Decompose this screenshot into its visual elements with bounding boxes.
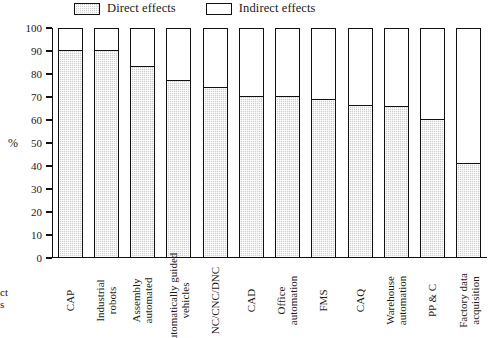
x-label-10: Warehouseautomation bbox=[384, 262, 409, 338]
bar-6 bbox=[239, 28, 264, 258]
y-tick-label: 10 bbox=[31, 229, 46, 240]
bar-segment-direct bbox=[240, 96, 263, 257]
x-label-text: NC/CNC/DNC bbox=[203, 266, 228, 333]
x-label-text: Officeautomation bbox=[275, 275, 300, 325]
bar-9 bbox=[348, 28, 373, 258]
cropped-edge-text-line2: s bbox=[0, 298, 26, 310]
y-tick-label: 60 bbox=[31, 114, 46, 125]
x-label-1: CAP bbox=[58, 262, 83, 338]
y-axis-ticks: 1009080706050403020100 bbox=[0, 28, 52, 258]
cropped-edge-text: ct s bbox=[0, 286, 26, 310]
bar-7 bbox=[275, 28, 300, 258]
chart-canvas: Direct effects Indirect effects % 100908… bbox=[0, 0, 495, 338]
bar-segment-direct bbox=[457, 163, 480, 257]
bar-segment-direct bbox=[131, 66, 154, 257]
bar-5 bbox=[203, 28, 228, 258]
x-label-text: Factory dataacquisition bbox=[456, 273, 481, 328]
y-tick-label: 30 bbox=[31, 183, 46, 194]
x-label-12: Factory dataacquisition bbox=[456, 262, 481, 338]
x-label-5: NC/CNC/DNC bbox=[203, 262, 228, 338]
bar-segment-direct bbox=[349, 105, 372, 257]
x-label-7: Officeautomation bbox=[275, 262, 300, 338]
y-tick-label: 50 bbox=[31, 137, 46, 148]
x-label-3: Assemblyautomated bbox=[130, 262, 155, 338]
y-tick-label: 80 bbox=[31, 68, 46, 79]
x-label-text: CAQ bbox=[348, 288, 373, 313]
y-tick-label: 100 bbox=[26, 22, 47, 33]
x-label-6: CAD bbox=[239, 262, 264, 338]
legend-label-direct: Direct effects bbox=[107, 1, 176, 16]
bar-3 bbox=[130, 28, 155, 258]
bar-segment-direct bbox=[95, 50, 118, 257]
x-label-2: Industrialrobots bbox=[94, 262, 119, 338]
bar-segment-direct bbox=[312, 99, 335, 257]
legend-swatch-direct-icon bbox=[74, 3, 100, 15]
x-label-text: CAP bbox=[58, 288, 83, 313]
bar-group bbox=[52, 28, 487, 258]
x-label-text: Automatically guidedvehicles bbox=[166, 262, 191, 338]
x-label-8: FMS bbox=[311, 262, 336, 338]
chart-legend: Direct effects Indirect effects bbox=[74, 1, 316, 16]
y-tick-label: 70 bbox=[31, 91, 46, 102]
bar-2 bbox=[94, 28, 119, 258]
x-axis-labels: CAPIndustrialrobotsAssemblyautomatedAuto… bbox=[52, 262, 487, 338]
y-tick-label: 40 bbox=[31, 160, 46, 171]
x-label-4: Automatically guidedvehicles bbox=[166, 262, 191, 338]
x-label-11: PP & C bbox=[420, 262, 445, 338]
legend-item-direct-effects: Direct effects bbox=[74, 1, 176, 16]
legend-label-indirect: Indirect effects bbox=[239, 1, 316, 16]
bar-12 bbox=[456, 28, 481, 258]
bar-segment-direct bbox=[385, 106, 408, 257]
bar-1 bbox=[58, 28, 83, 258]
y-tick-label: 90 bbox=[31, 45, 46, 56]
x-label-9: CAQ bbox=[348, 262, 373, 338]
y-tick-label: 0 bbox=[37, 252, 47, 263]
x-label-text: CAD bbox=[239, 288, 264, 313]
bar-segment-direct bbox=[204, 87, 227, 257]
x-label-text: FMS bbox=[311, 288, 336, 313]
x-label-text: PP & C bbox=[420, 283, 445, 316]
x-label-text: Warehouseautomation bbox=[384, 275, 409, 325]
x-label-text: Assemblyautomated bbox=[130, 277, 155, 323]
bar-10 bbox=[384, 28, 409, 258]
legend-item-indirect-effects: Indirect effects bbox=[206, 1, 316, 16]
bar-4 bbox=[166, 28, 191, 258]
bar-segment-direct bbox=[276, 96, 299, 257]
x-label-text: Industrialrobots bbox=[94, 279, 119, 321]
bar-11 bbox=[420, 28, 445, 258]
cropped-edge-text-line1: ct bbox=[0, 286, 26, 298]
bar-segment-direct bbox=[59, 50, 82, 257]
bar-8 bbox=[311, 28, 336, 258]
bar-segment-direct bbox=[167, 80, 190, 257]
legend-swatch-indirect-icon bbox=[206, 3, 232, 15]
y-tick-label: 20 bbox=[31, 206, 46, 217]
bar-segment-direct bbox=[421, 119, 444, 257]
